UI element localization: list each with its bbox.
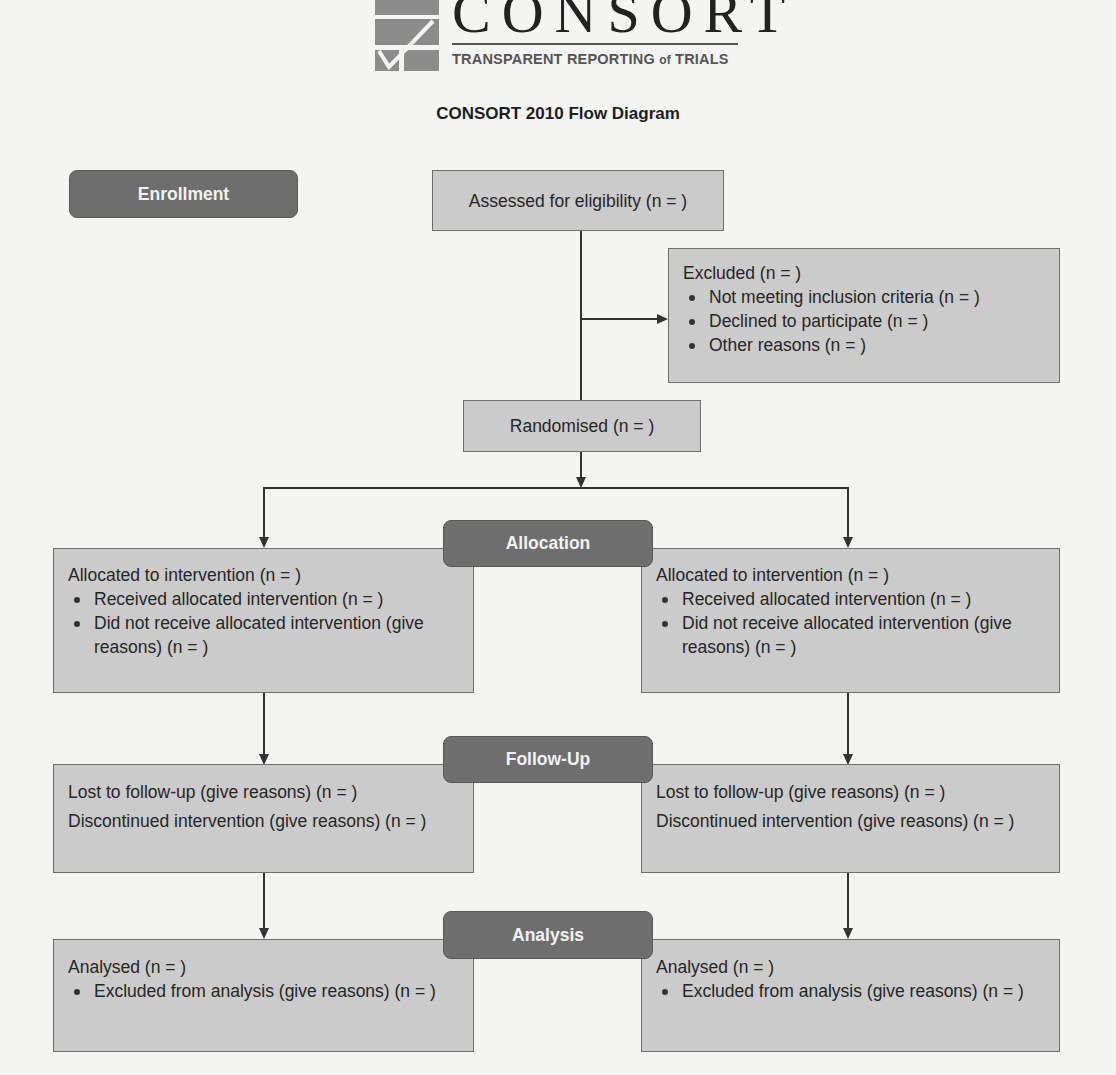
- assessed-text: Assessed for eligibility (n = ): [469, 189, 687, 213]
- allocation-right-list: Received allocated intervention (n = ) D…: [656, 587, 1026, 659]
- analysed-right-heading: Analysed (n = ): [656, 955, 1045, 979]
- allocation-left-heading: Allocated to intervention (n = ): [68, 563, 459, 587]
- logo-checkmark-icon: [375, 19, 439, 71]
- excluded-heading: Excluded (n = ): [683, 261, 1045, 285]
- allocation-right-item: Received allocated intervention (n = ): [656, 587, 1026, 611]
- analysis-right-box: Analysed (n = ) Excluded from analysis (…: [641, 939, 1060, 1052]
- logo-title: CONSORT: [452, 0, 796, 42]
- connector-left-analysis: [263, 872, 265, 929]
- arrow-down-icon: [259, 928, 269, 939]
- connector-left-follow-up: [263, 692, 265, 755]
- discontinued-left: Discontinued intervention (give reasons)…: [68, 809, 438, 833]
- randomised-text: Randomised (n = ): [510, 414, 654, 438]
- connector-split: [263, 487, 849, 489]
- stage-label-allocation: Allocation: [443, 520, 653, 567]
- excluded-list: Not meeting inclusion criteria (n = ) De…: [683, 285, 1045, 357]
- lost-to-follow-up-left: Lost to follow-up (give reasons) (n = ): [68, 780, 459, 804]
- allocation-left-list: Received allocated intervention (n = ) D…: [68, 587, 438, 659]
- connector-randomised-down: [580, 452, 582, 479]
- arrow-down-icon: [843, 928, 853, 939]
- excluded-item: Declined to participate (n = ): [683, 309, 1045, 333]
- connector-to-excluded: [580, 318, 658, 320]
- logo-rule: [452, 43, 738, 45]
- lost-to-follow-up-right: Lost to follow-up (give reasons) (n = ): [656, 780, 1045, 804]
- arrow-down-icon: [843, 537, 853, 548]
- analysed-left-heading: Analysed (n = ): [68, 955, 459, 979]
- stage-label-enrollment: Enrollment: [69, 170, 298, 218]
- analysis-right-list: Excluded from analysis (give reasons) (n…: [656, 979, 1026, 1003]
- excluded-item: Not meeting inclusion criteria (n = ): [683, 285, 1045, 309]
- allocation-right-heading: Allocated to intervention (n = ): [656, 563, 1045, 587]
- stage-label-follow-up: Follow-Up: [443, 736, 653, 783]
- allocation-left-item: Did not receive allocated intervention (…: [68, 611, 438, 659]
- allocation-right-item: Did not receive allocated intervention (…: [656, 611, 1026, 659]
- logo-square-top: [375, 0, 439, 15]
- follow-up-left-box: Lost to follow-up (give reasons) (n = ) …: [53, 764, 474, 873]
- excluded-item: Other reasons (n = ): [683, 333, 1045, 357]
- analysis-right-item: Excluded from analysis (give reasons) (n…: [656, 979, 1026, 1003]
- connector-left-allocation: [263, 487, 265, 538]
- allocation-left-box: Allocated to intervention (n = ) Receive…: [53, 548, 474, 693]
- follow-up-right-box: Lost to follow-up (give reasons) (n = ) …: [641, 764, 1060, 873]
- connector-right-analysis: [847, 872, 849, 929]
- analysis-left-item: Excluded from analysis (give reasons) (n…: [68, 979, 438, 1003]
- excluded-box: Excluded (n = ) Not meeting inclusion cr…: [668, 248, 1060, 383]
- assessed-for-eligibility-box: Assessed for eligibility (n = ): [432, 170, 724, 231]
- logo-subtitle: TRANSPARENT REPORTING of TRIALS: [452, 51, 729, 67]
- connector-right-follow-up: [847, 692, 849, 755]
- connector-eligibility-to-randomised: [580, 230, 582, 400]
- allocation-left-item: Received allocated intervention (n = ): [68, 587, 438, 611]
- discontinued-right: Discontinued intervention (give reasons)…: [656, 809, 1026, 833]
- analysis-left-list: Excluded from analysis (give reasons) (n…: [68, 979, 438, 1003]
- randomised-box: Randomised (n = ): [463, 400, 701, 452]
- connector-right-allocation: [847, 487, 849, 538]
- stage-label-analysis: Analysis: [443, 911, 653, 959]
- allocation-right-box: Allocated to intervention (n = ) Receive…: [641, 548, 1060, 693]
- arrow-down-icon: [259, 537, 269, 548]
- analysis-left-box: Analysed (n = ) Excluded from analysis (…: [53, 939, 474, 1052]
- diagram-title: CONSORT 2010 Flow Diagram: [0, 104, 1116, 124]
- arrow-right-icon: [657, 314, 668, 324]
